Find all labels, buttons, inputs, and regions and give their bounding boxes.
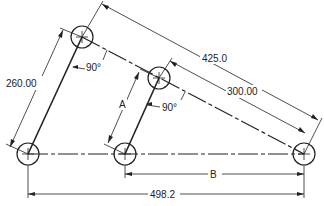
middle-link-line [125,78,159,154]
ext-middle-perp [140,69,159,78]
linkage-drawing: 425.0 300.00 260.00 A B 498.2 90° 90° [0,0,324,206]
diagonal-centerline [82,37,304,154]
dim-425-label: 425.0 [202,53,227,64]
ext-top-left [82,1,103,37]
angle-top-label: 90° [86,62,101,73]
dim-300-label: 300.00 [227,86,258,97]
dim-b-label: B [210,169,217,180]
dim-a-label: A [119,99,126,110]
angle-middle-arc-tick [181,92,185,100]
dim-498-label: 498.2 [150,189,175,200]
angle-middle-label: 90° [162,102,177,113]
angle-top-arc-tick [103,50,107,60]
angle-middle-leader [147,105,160,107]
left-link-line [28,37,82,154]
dim-260-label: 260.00 [6,78,37,89]
